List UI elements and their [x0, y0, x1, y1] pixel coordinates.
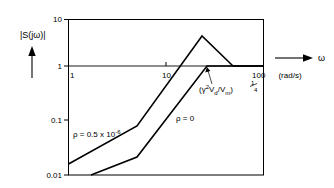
- y-tick-label-10: 10: [53, 15, 62, 24]
- y-tick-label-0p01: 0.01: [46, 171, 62, 180]
- y-tick-label-1: 1: [58, 62, 63, 71]
- y-axis-ticks: [64, 20, 69, 176]
- curve-label-rho-zero: ρ = 0: [176, 114, 195, 123]
- annotation-quarter-exponent: 1 4: [250, 80, 258, 93]
- annotation-quarter-denominator: 4: [254, 87, 258, 93]
- x-tick-label-100: 100: [252, 71, 266, 80]
- x-axis-arrow-icon: [275, 54, 313, 61]
- x-axis-title: ω: [318, 53, 325, 63]
- y-axis-title: |S(jω)|: [20, 30, 46, 40]
- curve-label-rho-damped-exponent: -6: [115, 129, 121, 135]
- x-tick-label-1: 1: [70, 71, 75, 80]
- annotation-close-paren: ): [230, 85, 233, 94]
- curve-rho-damped: [69, 36, 264, 164]
- figure-container: |S(jω)| 10 1 0.1 0.01 1 10 100: [0, 0, 334, 188]
- peak-annotation-formula: (γ2Vd/Vm): [199, 84, 233, 96]
- sensitivity-bode-plot: |S(jω)| 10 1 0.1 0.01 1 10 100: [0, 0, 334, 188]
- plot-frame: [69, 20, 264, 176]
- curve-label-rho-damped: ρ = 0.5 x 10-6: [73, 129, 121, 139]
- x-axis-units: (rad/s): [278, 71, 301, 80]
- y-axis-arrow-icon: [28, 46, 35, 78]
- y-tick-label-0p1: 0.1: [51, 116, 63, 125]
- annotation-open-paren: (γ: [199, 85, 206, 94]
- x-tick-label-10: 10: [162, 71, 171, 80]
- curve-label-rho-damped-text: ρ = 0.5 x 10: [73, 130, 116, 139]
